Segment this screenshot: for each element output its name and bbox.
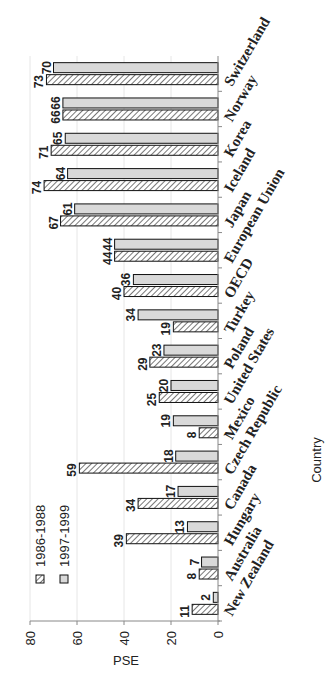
bar-1997-1999 bbox=[133, 275, 218, 285]
bar-1997-1999 bbox=[187, 522, 218, 532]
bar-1997-1999 bbox=[213, 592, 218, 602]
value-label: 66 bbox=[49, 96, 63, 110]
value-label: 59 bbox=[65, 463, 79, 477]
value-label: 8 bbox=[185, 572, 199, 579]
value-label: 11 bbox=[178, 605, 192, 618]
bar-1986-1988 bbox=[79, 463, 218, 473]
bar-1997-1999 bbox=[138, 310, 218, 320]
legend-label: 1997-1999 bbox=[57, 505, 72, 567]
legend: 1986-19881997-1999 bbox=[33, 505, 72, 583]
value-label: 61 bbox=[61, 202, 75, 216]
legend-label: 1986-1988 bbox=[33, 505, 48, 567]
value-label: 36 bbox=[119, 273, 133, 287]
bar-1997-1999 bbox=[63, 98, 218, 108]
tick-label: 0 bbox=[211, 631, 226, 638]
value-label: 44 bbox=[101, 251, 115, 265]
bar-1997-1999 bbox=[65, 133, 218, 143]
value-label: 29 bbox=[136, 357, 150, 371]
value-label: 17 bbox=[164, 484, 178, 498]
bar-1986-1988 bbox=[199, 428, 218, 438]
value-label: 39 bbox=[112, 534, 126, 548]
bar-1986-1988 bbox=[115, 251, 218, 261]
bar-1986-1988 bbox=[138, 498, 218, 508]
value-label: 67 bbox=[47, 216, 61, 230]
bar-1997-1999 bbox=[173, 416, 218, 426]
bar-1986-1988 bbox=[44, 181, 218, 191]
value-label: 65 bbox=[51, 131, 65, 145]
pse-bar-chart: 2117813391734185919820252329341936404444… bbox=[0, 0, 332, 689]
bar-1986-1988 bbox=[126, 534, 218, 544]
value-label: 19 bbox=[159, 414, 173, 428]
tick-label: 60 bbox=[70, 631, 85, 645]
value-label: 2 bbox=[199, 594, 213, 601]
value-label: 19 bbox=[159, 322, 173, 336]
value-label: 23 bbox=[150, 343, 164, 357]
value-label: 34 bbox=[124, 498, 138, 512]
bar-1997-1999 bbox=[202, 557, 218, 567]
bar-1986-1988 bbox=[61, 216, 218, 226]
value-label: 64 bbox=[54, 167, 68, 181]
category-axis-title: Country bbox=[309, 437, 324, 483]
value-label: 66 bbox=[49, 110, 63, 124]
bar-1986-1988 bbox=[192, 604, 218, 614]
value-label: 13 bbox=[173, 520, 187, 534]
value-label: 20 bbox=[157, 378, 171, 392]
bar-1986-1988 bbox=[159, 392, 218, 402]
value-label: 34 bbox=[124, 308, 138, 322]
bar-1997-1999 bbox=[178, 486, 218, 496]
bar-1997-1999 bbox=[115, 239, 218, 249]
bar-1997-1999 bbox=[176, 451, 218, 461]
bar-1997-1999 bbox=[75, 204, 218, 214]
bar-1986-1988 bbox=[63, 110, 218, 120]
value-label: 7 bbox=[188, 558, 202, 565]
bar-1997-1999 bbox=[171, 380, 218, 390]
bar-1986-1988 bbox=[199, 569, 218, 579]
bar-1986-1988 bbox=[173, 322, 218, 332]
value-label: 73 bbox=[32, 75, 46, 89]
bar-1986-1988 bbox=[150, 357, 218, 367]
value-label: 40 bbox=[110, 287, 124, 301]
value-axis-title: PSE bbox=[113, 653, 139, 668]
legend-swatch bbox=[60, 575, 68, 583]
tick-label: 80 bbox=[23, 631, 38, 645]
bar-1986-1988 bbox=[124, 287, 218, 297]
value-label: 25 bbox=[145, 392, 159, 406]
value-label: 18 bbox=[162, 449, 176, 463]
bar-1986-1988 bbox=[46, 75, 218, 85]
tick-label: 20 bbox=[164, 631, 179, 645]
bar-1997-1999 bbox=[68, 169, 218, 179]
category-labels: New ZealandAustraliaHungaryCanadaCzech R… bbox=[221, 14, 288, 619]
value-label: 44 bbox=[101, 237, 115, 251]
bar-1997-1999 bbox=[54, 63, 219, 73]
legend-swatch bbox=[36, 575, 44, 583]
value-label: 74 bbox=[30, 181, 44, 195]
tick-label: 40 bbox=[117, 631, 132, 645]
value-label: 71 bbox=[37, 145, 51, 159]
bar-1986-1988 bbox=[51, 145, 218, 155]
value-label: 8 bbox=[185, 431, 199, 438]
bar-1997-1999 bbox=[164, 345, 218, 355]
value-label: 70 bbox=[40, 61, 54, 75]
